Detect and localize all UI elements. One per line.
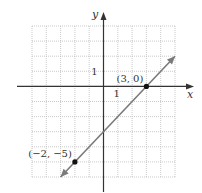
- data-point: [144, 84, 149, 89]
- y-tick-label: 1: [91, 66, 97, 77]
- y-axis-arrow-icon: [101, 12, 107, 20]
- y-axis-label: y: [91, 8, 99, 21]
- point-label-neg2-neg5: (−2, −5): [28, 148, 72, 159]
- data-point: [72, 159, 77, 164]
- axes: [17, 12, 194, 192]
- x-axis-label: x: [187, 88, 194, 101]
- labels: yx11(3, 0)(−2, −5): [28, 8, 194, 159]
- coordinate-plane: yx11(3, 0)(−2, −5): [0, 0, 202, 193]
- x-tick-label: 1: [114, 88, 120, 99]
- point-label-3-0: (3, 0): [117, 73, 144, 84]
